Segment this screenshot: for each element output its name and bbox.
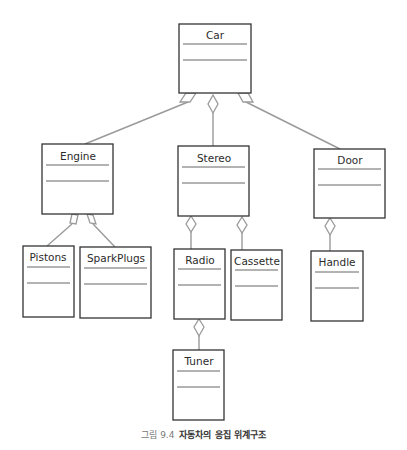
class-car: Car (179, 24, 251, 93)
class-name: Pistons (29, 251, 66, 263)
class-door: Door (314, 149, 385, 218)
connector-engine-pistons (47, 224, 72, 246)
class-cassette: Cassette (231, 250, 282, 320)
class-radio: Radio (174, 249, 225, 319)
figure-caption: 그림 9.4자동차의 응집 위계구조 (0, 428, 407, 441)
class-pistons: Pistons (23, 246, 74, 317)
figure-label: 그림 9.4 (141, 430, 174, 440)
figure-title: 자동차의 응집 위계구조 (179, 430, 265, 440)
class-name: Cassette (234, 255, 280, 267)
class-handle: Handle (311, 251, 363, 321)
aggregation-diamond-icon (194, 319, 204, 336)
aggregation-diamond-icon (186, 216, 196, 232)
aggregation-diamond-icon (180, 93, 196, 102)
class-name: Stereo (197, 152, 231, 164)
aggregation-diamond-icon (208, 95, 218, 113)
class-sparkplugs: SparkPlugs (80, 247, 151, 318)
class-name: Engine (60, 150, 96, 162)
connector-car-door (246, 102, 340, 149)
aggregation-diamond-icon (238, 93, 253, 102)
class-name: Tuner (184, 355, 215, 367)
class-name: Handle (318, 256, 355, 268)
aggregation-diamond-icon (70, 214, 78, 224)
connector-car-engine (85, 102, 188, 144)
class-stereo: Stereo (178, 146, 249, 216)
class-name: Door (337, 154, 363, 166)
class-name: Car (206, 29, 225, 41)
aggregation-diagram: Car Engine Stereo Door Pistons (0, 0, 407, 450)
class-name: Radio (185, 254, 215, 266)
aggregation-diamond-icon (87, 214, 96, 224)
class-engine: Engine (42, 144, 113, 214)
class-tuner: Tuner (173, 350, 224, 420)
class-name: SparkPlugs (87, 252, 145, 264)
aggregation-diamond-icon (325, 218, 335, 235)
aggregation-diamond-icon (237, 217, 247, 233)
connector-engine-sparkplugs (93, 224, 115, 247)
